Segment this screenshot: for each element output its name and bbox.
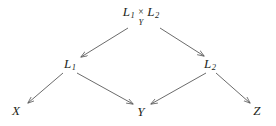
arrow-fiber-product-to-l2: [160, 28, 204, 56]
fiber-base-subscript: Y: [139, 18, 144, 27]
fiber-left-factor: L1: [123, 5, 135, 20]
node-z-letter: Z: [253, 103, 260, 118]
node-y-letter: Y: [137, 104, 144, 119]
arrow-fiber-product-to-l1: [81, 28, 128, 57]
node-l1-letter: L: [64, 56, 71, 71]
arrow-l1-to-y: [77, 73, 133, 104]
fiber-right-factor-subscript: 2: [155, 10, 159, 20]
arrow-l1-to-x: [28, 73, 63, 103]
node-x: X: [12, 104, 20, 117]
arrow-l2-to-y: [151, 73, 206, 104]
node-l2-subscript: 2: [212, 62, 216, 72]
node-y: Y: [137, 105, 144, 118]
node-z: Z: [253, 104, 260, 117]
node-l2-letter: L: [204, 56, 211, 71]
fiber-left-factor-letter: L: [123, 4, 130, 19]
fiber-product-expression: L1 × Y L2: [123, 5, 159, 28]
fiber-right-factor-letter: L: [147, 4, 154, 19]
arrow-l2-to-z: [216, 73, 250, 103]
node-fiber-product: L1 × Y L2: [123, 5, 159, 28]
commutative-diagram: L1 × Y L2 L1 L2 X Y Z: [0, 0, 276, 126]
node-l1-subscript: 1: [72, 62, 76, 72]
fiber-times-stack: × Y: [138, 8, 144, 27]
node-l1: L1: [64, 57, 76, 72]
node-x-letter: X: [12, 103, 20, 118]
fiber-left-factor-subscript: 1: [130, 10, 134, 20]
fiber-right-factor: L2: [147, 5, 159, 20]
node-l2: L2: [204, 57, 216, 72]
